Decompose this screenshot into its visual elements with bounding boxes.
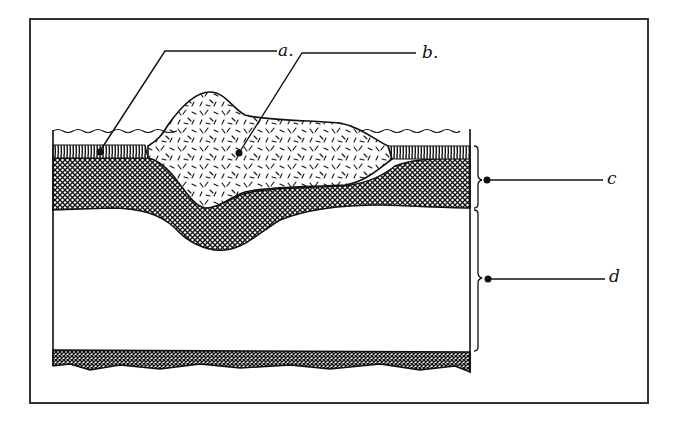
pointer-dot-a — [97, 149, 104, 156]
label-d: d — [609, 268, 620, 285]
water-surface-left — [53, 130, 177, 133]
bracket-c — [474, 146, 482, 208]
label-a: a. — [278, 42, 294, 59]
base-layer — [53, 350, 470, 372]
label-b: b. — [422, 44, 438, 61]
diagram-canvas: a. b. c d — [0, 0, 675, 428]
cross-section-figure — [0, 0, 675, 428]
bracket-d — [474, 210, 482, 351]
pointer-dot-b — [236, 150, 243, 157]
outer-frame — [30, 19, 648, 403]
layer-a-right — [388, 146, 470, 159]
water-surface-right — [362, 130, 460, 133]
label-c: c — [607, 170, 617, 187]
